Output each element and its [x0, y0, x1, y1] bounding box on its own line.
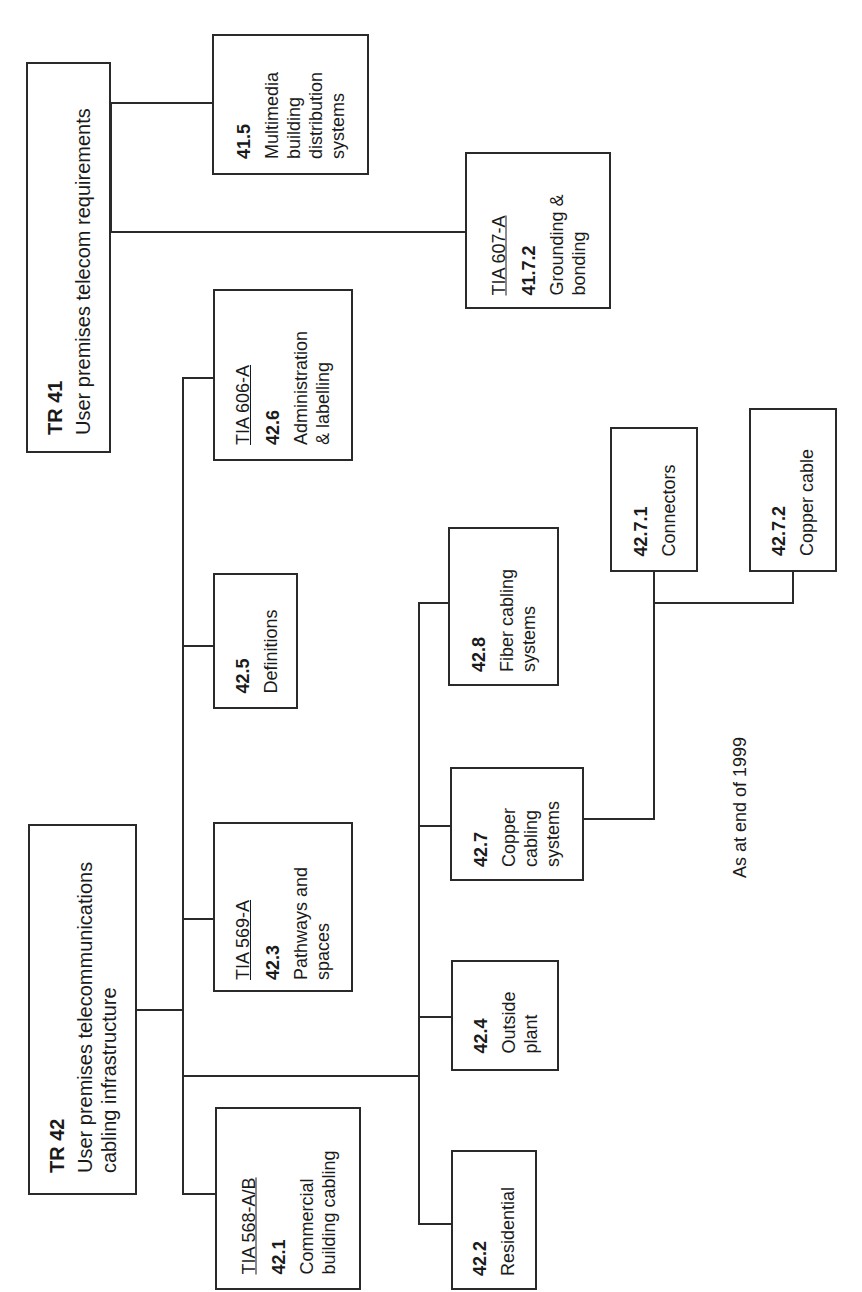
connector-tr42: [136, 1009, 183, 1011]
connector-42-6: [182, 377, 214, 379]
connector-42-7-2-branch: [653, 602, 794, 604]
node-tr41: TR 41 User premises telecom requirements: [26, 62, 111, 453]
connector-tr41-41-5: [110, 102, 213, 104]
node-41-5: 41.5 Multimedia building distribution sy…: [212, 34, 369, 175]
node-number: TR 42: [45, 1119, 69, 1173]
node-42-5: 42.5 Definitions: [213, 573, 298, 709]
node-standard: TIA 568-A/B: [237, 1177, 259, 1274]
node-number: 42.5: [231, 658, 253, 693]
connector-lower-spine: [418, 602, 420, 1225]
node-standard: TIA 606-A: [232, 365, 254, 445]
node-number: 42.7.2: [768, 506, 790, 556]
connector-42-5: [182, 645, 214, 647]
connector-42-7-right: [583, 818, 655, 820]
connector-42-7: [418, 825, 451, 827]
node-label: Copper cabling systems: [498, 801, 564, 867]
node-label: Pathways and spaces: [290, 867, 334, 980]
connector-branch-lower: [182, 1075, 420, 1077]
node-number: TR 41: [43, 381, 67, 435]
node-number: 42.3: [262, 945, 284, 980]
node-label: Definitions: [259, 609, 281, 693]
node-42-7-2: 42.7.2 Copper cable: [749, 408, 837, 572]
connector-42-3: [182, 918, 214, 920]
node-number: 42.6: [262, 410, 284, 445]
node-label: Commercial building cabling: [295, 1150, 339, 1274]
connector-tr42-spine: [182, 377, 184, 1195]
connector-42-1: [182, 1193, 216, 1195]
node-label: User premises telecom requirements: [71, 108, 95, 435]
node-42-7: 42.7 Copper cabling systems: [450, 767, 584, 881]
node-number: 41.7.2: [517, 245, 539, 295]
node-label: Connectors: [657, 464, 679, 556]
node-42-7-1: 42.7.1 Connectors: [610, 427, 698, 572]
node-number: 42.4: [469, 1018, 491, 1053]
node-label: Administration & labelling: [290, 331, 334, 445]
node-standard: TIA 607-A: [487, 215, 509, 295]
node-label: Residential: [497, 1187, 519, 1276]
node-number: 42.7: [470, 832, 492, 867]
node-label: Outside plant: [497, 991, 541, 1053]
node-label: Multimedia building distribution systems: [261, 72, 349, 159]
connector-42-4: [418, 1016, 452, 1018]
node-42-6: TIA 606-A 42.6 Administration & labellin…: [213, 289, 353, 461]
node-42-2: 42.2 Residential: [451, 1150, 537, 1290]
node-label: Copper cable: [796, 449, 818, 556]
node-number: 42.1: [267, 1239, 289, 1274]
node-standard: TIA 569-A: [232, 900, 254, 980]
diagram-note: As at end of 1999: [730, 728, 751, 888]
node-number: 42.8: [468, 637, 490, 672]
node-label: Fiber cabling systems: [496, 569, 540, 672]
connector-42-7-1-stem: [653, 570, 655, 820]
node-tr42: TR 42 User premises telecommunications c…: [28, 824, 137, 1195]
node-number: 42.2: [469, 1241, 491, 1276]
node-label: Grounding & bonding: [545, 194, 589, 295]
node-42-1: TIA 568-A/B 42.1 Commercial building cab…: [215, 1107, 361, 1290]
connector-42-8: [418, 602, 449, 604]
connector-42-7-2-stem: [792, 570, 794, 604]
node-42-4: 42.4 Outside plant: [451, 960, 559, 1071]
node-42-3: TIA 569-A 42.3 Pathways and spaces: [213, 822, 353, 992]
connector-42-2: [418, 1223, 452, 1225]
node-number: 42.7.1: [629, 506, 651, 556]
node-number: 41.5: [233, 124, 255, 159]
connector-tr41-41-7-2: [110, 231, 466, 233]
node-42-8: 42.8 Fiber cabling systems: [448, 527, 559, 686]
node-41-7-2: TIA 607-A 41.7.2 Grounding & bonding: [465, 152, 611, 309]
node-label: User premises telecommunications cabling…: [73, 862, 121, 1173]
